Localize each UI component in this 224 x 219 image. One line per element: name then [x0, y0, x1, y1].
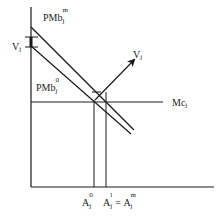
- v-arrow-label: Vj: [133, 50, 145, 60]
- pmb-0-label: PMb0j: [36, 83, 60, 93]
- diagram-canvas: [0, 0, 224, 219]
- a1-am-label: Alj = Amj: [103, 198, 136, 208]
- v-bracket-label: Vj: [12, 42, 24, 52]
- a0-label: A0j: [82, 198, 94, 208]
- pmb-m-line: [31, 27, 134, 130]
- mc-label: Mcj: [172, 98, 190, 108]
- pmb-m-label: PMbmj: [43, 13, 67, 23]
- v-arrow: [95, 60, 134, 100]
